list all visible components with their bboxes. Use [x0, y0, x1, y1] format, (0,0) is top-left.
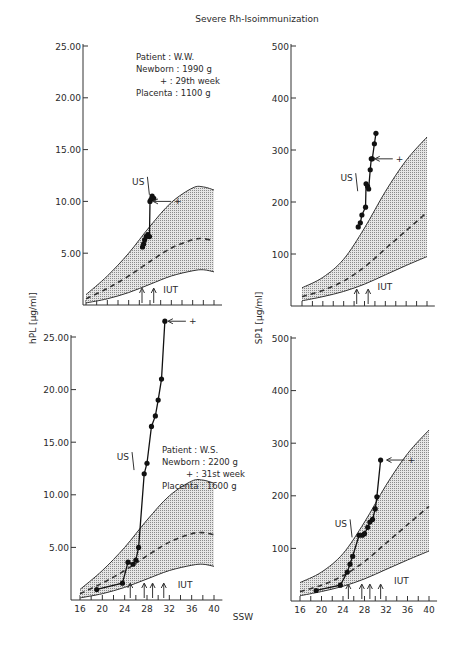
patient-info-line: Placenta : 1600 g — [162, 481, 237, 491]
patient-data-point — [120, 581, 125, 586]
y-tick-label: 500 — [272, 334, 289, 344]
x-tick-label: 20 — [316, 605, 328, 615]
iut-label: IUT — [163, 285, 178, 295]
patient-data-point — [372, 141, 377, 146]
y-tick-label: 200 — [272, 491, 289, 501]
patient-data-point — [350, 554, 355, 559]
patient-data-point — [374, 494, 379, 499]
patient-data-point — [144, 461, 149, 466]
x-tick-label: 32 — [164, 604, 175, 614]
y-tick-label: 5.00 — [49, 543, 69, 553]
patient-data-point — [153, 413, 158, 418]
panel-hpl-ws: 5.0010.0015.0020.0025.0016202428323640US… — [43, 316, 245, 614]
patient-data-point — [94, 587, 99, 592]
patient-data-point — [365, 525, 370, 530]
x-tick-label: 36 — [402, 605, 414, 615]
y-tick-label: 10.00 — [43, 490, 69, 500]
patient-data-point — [373, 506, 378, 511]
x-tick-label: 24 — [119, 604, 131, 614]
x-tick-label: 36 — [186, 604, 198, 614]
iut-label: IUT — [378, 282, 393, 292]
y-tick-label: 100 — [272, 544, 289, 554]
patient-data-point — [314, 588, 319, 593]
x-tick-label: 28 — [359, 605, 371, 615]
patient-data-point — [142, 471, 147, 476]
x-tick-label: 20 — [97, 604, 109, 614]
patient-data-point — [370, 517, 375, 522]
x-tick-label: 24 — [337, 605, 349, 615]
patient-data-point — [147, 234, 152, 239]
us-arrow — [147, 177, 149, 195]
patient-info-line: Patient : W.S. — [162, 445, 218, 455]
panel-sp-ws: 10020030040050016202428323640US+IUT — [272, 334, 437, 616]
y-tick-label: 20.00 — [43, 385, 69, 395]
y-tick-label: 300 — [272, 439, 289, 449]
patient-info-line: Newborn : 2200 g — [162, 457, 238, 467]
y-tick-label: 25.00 — [43, 333, 69, 343]
y-tick-label: 400 — [272, 386, 289, 396]
x-tick-label: 28 — [141, 604, 153, 614]
death-marker: + — [189, 316, 197, 326]
us-annotation: US — [340, 173, 353, 183]
patient-info-line: Patient : W.W. — [136, 52, 194, 62]
y-tick-label: 10.00 — [55, 197, 81, 207]
patient-data-point — [363, 205, 368, 210]
us-annotation: US — [117, 452, 130, 462]
patient-info-line: Newborn : 1990 g — [136, 64, 212, 74]
y-tick-label: 200 — [272, 198, 289, 208]
patient-data-point — [133, 557, 138, 562]
y-tick-label: 25.00 — [55, 42, 81, 52]
chart-title: Severe Rh-Isoimmunization — [195, 14, 319, 24]
death-marker: + — [174, 196, 182, 206]
patient-data-point — [359, 212, 364, 217]
death-marker: + — [408, 455, 416, 465]
y-tick-label: 15.00 — [43, 438, 69, 448]
us-arrow — [132, 452, 134, 470]
y-tick-label: 300 — [272, 146, 289, 156]
y-tick-label: 5.00 — [61, 249, 81, 259]
chart-figure: Severe Rh-Isoimmunization SSW hPL [µg/ml… — [0, 0, 466, 646]
patient-data-point — [373, 131, 378, 136]
patient-data-point — [347, 562, 352, 567]
panel-sp-ww: 100200300400500US+IUT — [272, 42, 435, 307]
us-arrow — [350, 519, 352, 537]
patient-data-point — [338, 583, 343, 588]
patient-info-line: Placenta : 1100 g — [136, 88, 211, 98]
patient-data-point — [366, 186, 371, 191]
patient-data-point — [368, 167, 373, 172]
normal-range-band — [302, 137, 427, 301]
x-tick-label: 16 — [294, 605, 306, 615]
patient-data-point — [159, 376, 164, 381]
y-tick-label: 400 — [272, 94, 289, 104]
us-annotation: US — [335, 519, 348, 529]
patient-info-line: + : 29th week — [160, 76, 220, 86]
x-tick-label: 32 — [380, 605, 391, 615]
x-axis-label: SSW — [233, 612, 253, 622]
patient-data-point — [378, 457, 383, 462]
us-arrow — [356, 173, 358, 191]
patient-data-point — [149, 424, 154, 429]
y-tick-label: 15.00 — [55, 145, 81, 155]
patient-data-point — [162, 319, 167, 324]
patient-data-point — [362, 531, 367, 536]
iut-label: IUT — [178, 580, 193, 590]
y-axis-label-hpl: hPL [µg/ml] — [28, 292, 38, 344]
iut-label: IUT — [394, 576, 409, 586]
patient-data-point — [125, 560, 130, 565]
y-tick-label: 20.00 — [55, 93, 81, 103]
patient-data-point — [156, 398, 161, 403]
x-tick-label: 40 — [208, 604, 220, 614]
y-tick-label: 500 — [272, 42, 289, 52]
panel-hpl-ww: 5.0010.0015.0020.0025.00US+IUTPatient : … — [55, 42, 222, 306]
y-axis-label-sp1: SP1 [µg/ml] — [254, 292, 264, 345]
x-tick-label: 16 — [74, 604, 86, 614]
patient-data-point — [136, 545, 141, 550]
patient-data-point — [345, 569, 350, 574]
normal-range-band — [80, 479, 214, 597]
us-annotation: US — [132, 177, 145, 187]
y-tick-label: 100 — [272, 250, 289, 260]
patient-info-line: + : 31st week — [186, 469, 245, 479]
x-tick-label: 40 — [423, 605, 435, 615]
death-marker: + — [396, 154, 404, 164]
patient-data-point — [358, 220, 363, 225]
